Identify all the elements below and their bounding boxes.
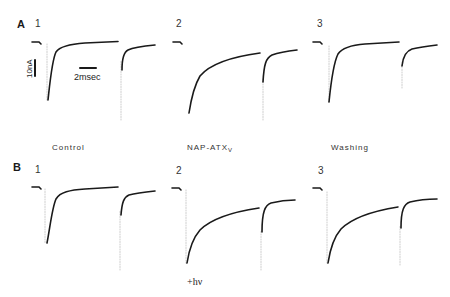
current-trace-b2-1 xyxy=(187,208,259,263)
current-trace-a2-2 xyxy=(263,50,297,82)
current-trace-a3-2 xyxy=(402,45,437,66)
baseline-marker-a2 xyxy=(173,42,182,44)
current-trace-b3-2 xyxy=(401,199,437,228)
baseline-marker-a3 xyxy=(313,42,322,44)
figure: A B 1 2 3 Control NAP-ATXV Washing 1 2 3… xyxy=(0,0,450,297)
current-trace-a2-1 xyxy=(189,53,260,113)
baseline-marker-b3 xyxy=(313,188,322,190)
current-trace-a1-1 xyxy=(48,42,118,101)
baseline-marker-b1 xyxy=(32,187,41,189)
baseline-marker-b2 xyxy=(172,188,181,190)
current-trace-b1-1 xyxy=(47,187,118,243)
current-trace-a3-1 xyxy=(329,42,399,102)
baseline-marker-a1 xyxy=(32,42,41,44)
current-trace-b1-2 xyxy=(121,191,155,215)
traces-canvas xyxy=(0,0,450,297)
current-trace-b2-2 xyxy=(262,200,295,232)
current-trace-b3-1 xyxy=(328,207,398,263)
current-trace-a1-2 xyxy=(122,45,155,70)
